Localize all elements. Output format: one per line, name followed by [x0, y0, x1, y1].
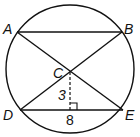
- label-height: 3: [58, 87, 66, 103]
- geometry-diagram: A B C D E 3 8: [0, 0, 140, 137]
- label-b: B: [124, 21, 133, 37]
- label-d: D: [3, 107, 13, 123]
- label-a: A: [2, 21, 12, 37]
- label-base: 8: [66, 112, 74, 128]
- label-c: C: [53, 65, 64, 81]
- right-angle-mark: [70, 103, 77, 110]
- label-e: E: [125, 107, 135, 123]
